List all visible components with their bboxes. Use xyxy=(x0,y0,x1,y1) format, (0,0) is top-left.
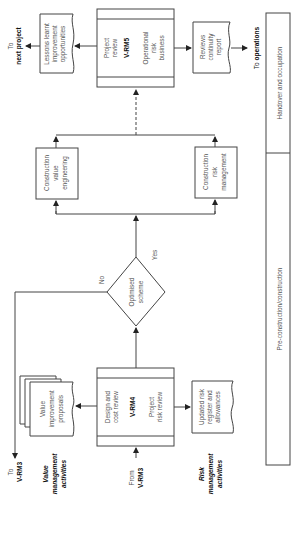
value-management-lane-label: Value management activities xyxy=(42,453,67,494)
from-vrm3-line2: V-RM3 xyxy=(137,468,144,488)
crm-line1: Construction xyxy=(202,154,209,190)
to-vrm3-line1: To xyxy=(7,468,14,475)
cve-line3: engineering xyxy=(61,156,69,190)
svg-text:management: management xyxy=(207,453,215,494)
reviews-continuity-document: Reviews continuity report xyxy=(193,22,230,73)
reviews-line2: continuity xyxy=(207,33,215,61)
vrm5-box: Project review V-RM5 Operational risk bu… xyxy=(97,9,174,87)
v-rm-process-diagram: Handover and occupation Pre-construction… xyxy=(0,0,301,551)
vrm5-top-line2: review xyxy=(111,38,118,57)
vrm5-bottom-line1: Operational xyxy=(142,31,150,64)
to-vrm3-line2: V-RM3 xyxy=(16,462,23,482)
svg-text:activities: activities xyxy=(60,460,67,489)
phase-preconstruction-label: Pre-construction/construction xyxy=(276,267,283,350)
vrm5-bottom-line2: risk xyxy=(150,42,157,53)
vip-line1: Value xyxy=(39,401,46,417)
vrm4-top-line2: cost review xyxy=(112,391,119,423)
lessons-line2: improvement xyxy=(51,25,59,62)
decision-no-label: No xyxy=(98,275,105,284)
crm-line2: risk xyxy=(211,166,218,177)
rr-line2: register and xyxy=(206,390,214,424)
vrm4-bottom-line2: risk review xyxy=(156,392,163,423)
vrm5-top-line1: Project xyxy=(103,38,111,58)
vrm4-top-line1: Design and xyxy=(104,390,112,423)
updated-risk-register-document: Updated risk register and allowances xyxy=(192,381,233,433)
rr-line3: allowances xyxy=(214,391,221,423)
decision-line1: Optimised xyxy=(128,277,136,306)
reviews-line3: report xyxy=(215,38,223,55)
construction-value-engineering-box: Construction value engineering xyxy=(36,148,78,199)
svg-text:management: management xyxy=(51,453,59,494)
vrm5-label: V-RM5 xyxy=(123,38,130,58)
rr-line1: Updated risk xyxy=(198,388,206,425)
from-vrm3-line1: From xyxy=(128,471,135,486)
cve-line1: Construction xyxy=(43,155,50,191)
vrm4-bottom-line1: Project xyxy=(148,397,156,417)
crm-line3: management xyxy=(220,153,228,191)
lessons-line1: Lessons learnt xyxy=(43,23,50,65)
vip-line3: proposals xyxy=(57,395,65,423)
vip-line2: improvement xyxy=(48,390,56,427)
cve-line2: value xyxy=(52,165,59,181)
to-operations-label: To operations xyxy=(253,27,261,70)
lessons-learnt-document: Lessons learnt improvement opportunities xyxy=(40,14,74,73)
to-next-project-line2: next project xyxy=(15,27,23,65)
to-next-project-line1: To xyxy=(7,42,14,49)
svg-text:activities: activities xyxy=(216,460,223,489)
optimised-scheme-decision: Optimised scheme xyxy=(107,257,165,326)
construction-risk-management-box: Construction risk management xyxy=(195,147,237,198)
decision-line2: scheme xyxy=(137,280,144,303)
svg-text:Value: Value xyxy=(42,465,49,483)
svg-text:Risk: Risk xyxy=(198,467,205,481)
vrm4-box: Design and cost review V-RM4 Project ris… xyxy=(97,368,174,446)
phase-handover-label: Handover and occupation xyxy=(276,46,284,119)
value-improvement-proposals-document: Value improvement proposals xyxy=(20,376,74,436)
vrm4-label: V-RM4 xyxy=(129,397,136,417)
lessons-line3: opportunities xyxy=(59,26,67,63)
vrm5-bottom-line3: business xyxy=(158,35,165,60)
risk-management-lane-label: Risk management activities xyxy=(198,453,223,494)
decision-yes-label: Yes xyxy=(151,250,158,260)
phase-timeline: Handover and occupation Pre-construction… xyxy=(266,13,290,465)
reviews-line1: Reviews xyxy=(199,35,206,59)
split-line xyxy=(56,211,215,214)
